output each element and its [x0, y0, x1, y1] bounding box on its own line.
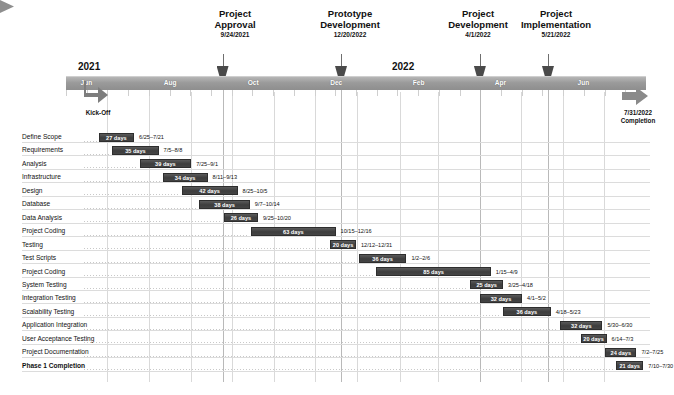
task-bar-4[interactable]: 42 days	[182, 186, 238, 195]
task-label-6[interactable]: Data Analysis	[22, 214, 62, 221]
task-bar-10[interactable]: 85 days	[376, 267, 490, 276]
task-duration-15: 20 days	[582, 335, 606, 343]
task-duration-5: 38 days	[200, 201, 248, 209]
task-bar-16[interactable]: 24 days	[605, 348, 636, 357]
task-dates-9: 1/2–2/6	[411, 255, 430, 261]
task-duration-4: 42 days	[183, 187, 237, 195]
milestone-title-line2: Development	[290, 19, 410, 30]
row-baseline-15	[22, 344, 650, 345]
task-label-13[interactable]: Scalability Testing	[22, 308, 74, 315]
completion-date: 7/31/2022	[602, 109, 674, 117]
milestone-date: 5/21/2022	[496, 31, 616, 39]
task-dates-17: 7/10–7/30	[648, 363, 673, 369]
task-duration-14: 32 days	[561, 322, 601, 330]
task-bar-17[interactable]: 21 days	[616, 361, 643, 370]
task-leader-4	[84, 194, 180, 195]
kickoff-label: Kick-Off	[70, 109, 126, 117]
ribbon-tick-22	[522, 89, 523, 96]
year-label-2022: 2022	[392, 61, 414, 72]
task-dates-11: 3/25–4/18	[508, 282, 533, 288]
task-label-0[interactable]: Define Scope	[22, 133, 62, 140]
ribbon-tick-21	[501, 89, 502, 96]
ribbon-tick-12	[315, 89, 316, 96]
task-label-7[interactable]: Project Coding	[22, 227, 65, 234]
ribbon-tick-18	[439, 89, 440, 96]
task-duration-7: 63 days	[252, 228, 334, 236]
task-label-16[interactable]: Project Documentation	[22, 348, 89, 355]
task-bar-13[interactable]: 36 days	[503, 307, 551, 316]
task-duration-2: 39 days	[141, 160, 191, 168]
ribbon-tick-7	[211, 89, 212, 96]
row-baseline-1	[22, 155, 650, 156]
ribbon-tick-8	[232, 89, 233, 96]
task-duration-11: 25 days	[471, 281, 502, 289]
milestone-1[interactable]: ProjectApproval9/24/2021	[175, 8, 295, 39]
row-baseline-4	[22, 196, 650, 197]
gantt-chart: ProjectApproval9/24/2021PrototypeDevelop…	[0, 0, 674, 395]
month-label-1: Aug	[150, 79, 190, 86]
ribbon-tick-5	[170, 89, 171, 96]
task-leader-3	[84, 181, 161, 182]
month-label-5: Apr	[480, 79, 520, 86]
task-label-1[interactable]: Requirements	[22, 146, 63, 153]
task-duration-16: 24 days	[606, 349, 635, 357]
task-dates-4: 8/25–10/5	[243, 188, 268, 194]
kickoff-arrow-icon	[84, 81, 110, 103]
task-leader-16	[84, 356, 603, 357]
row-baseline-7	[22, 236, 650, 237]
task-label-12[interactable]: Integration Testing	[22, 294, 76, 301]
task-label-8[interactable]: Testing	[22, 241, 43, 248]
task-label-5[interactable]: Database	[22, 200, 50, 207]
task-bar-2[interactable]: 39 days	[140, 159, 192, 168]
task-bar-11[interactable]: 25 days	[470, 280, 503, 289]
task-label-2[interactable]: Analysis	[22, 160, 47, 167]
task-label-10[interactable]: Project Coding	[22, 268, 65, 275]
task-dates-10: 1/15–4/9	[496, 269, 518, 275]
row-baseline-3	[22, 182, 650, 183]
milestone-2[interactable]: PrototypeDevelopment12/20/2022	[290, 8, 410, 39]
row-baseline-17	[22, 371, 650, 372]
ribbon-tick-6	[190, 89, 191, 96]
milestone-4[interactable]: ProjectImplementation5/21/2022	[496, 8, 616, 39]
task-bar-12[interactable]: 32 days	[480, 294, 522, 303]
task-bar-7[interactable]: 63 days	[251, 227, 335, 236]
ribbon-tick-16	[397, 89, 398, 96]
task-duration-3: 34 days	[164, 174, 207, 182]
task-bar-14[interactable]: 32 days	[560, 321, 602, 330]
task-dates-15: 6/14–7/3	[612, 336, 634, 342]
task-label-15[interactable]: User Acceptance Testing	[22, 335, 94, 342]
task-label-4[interactable]: Design	[22, 187, 43, 194]
ribbon-tick-14	[356, 89, 357, 96]
task-dates-5: 9/7–10/14	[255, 201, 280, 207]
task-label-14[interactable]: Application Integration	[22, 321, 87, 328]
ribbon-tick-9	[252, 89, 253, 96]
ribbon-arrow-head	[0, 0, 14, 13]
task-bar-8[interactable]: 20 days	[330, 240, 356, 249]
task-duration-17: 21 days	[617, 362, 642, 370]
task-dates-14: 5/30–6/30	[607, 322, 632, 328]
task-bar-15[interactable]: 20 days	[581, 334, 607, 343]
milestone-title-line1: Project	[175, 8, 295, 19]
month-label-6: Jun	[563, 79, 603, 86]
row-baseline-8	[22, 250, 650, 251]
task-dates-1: 7/5–8/8	[164, 147, 183, 153]
task-dates-8: 12/12–12/31	[361, 242, 392, 248]
task-leader-0	[84, 141, 97, 142]
task-bar-1[interactable]: 35 days	[112, 146, 158, 155]
task-bar-0[interactable]: 27 days	[99, 133, 134, 142]
task-bar-9[interactable]: 36 days	[359, 254, 407, 263]
task-bar-6[interactable]: 26 days	[224, 213, 258, 222]
task-label-17[interactable]: Phase 1 Completion	[22, 362, 85, 369]
task-dates-12: 4/1–5/2	[527, 295, 546, 301]
task-label-3[interactable]: Infrastructure	[22, 173, 61, 180]
task-bar-5[interactable]: 38 days	[199, 200, 249, 209]
task-leader-15	[84, 342, 579, 343]
row-baseline-13	[22, 317, 650, 318]
task-bar-3[interactable]: 34 days	[163, 173, 208, 182]
task-label-9[interactable]: Test Scripts	[22, 254, 56, 261]
ribbon-tick-0	[66, 89, 67, 96]
task-leader-5	[84, 208, 197, 209]
task-leader-8	[84, 248, 328, 249]
task-label-11[interactable]: System Testing	[22, 281, 67, 288]
task-leader-6	[84, 221, 222, 222]
